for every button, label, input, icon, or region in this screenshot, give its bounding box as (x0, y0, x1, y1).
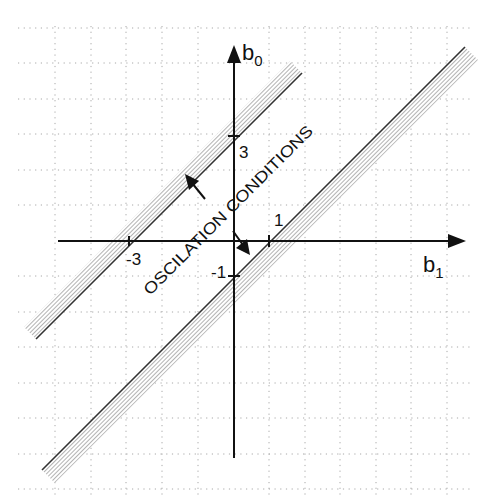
upper-boundary-band (24, 61, 302, 339)
tick-label-y-3: 3 (239, 143, 248, 162)
arrow-to-lower-boundary-icon (233, 231, 250, 255)
oscillation-conditions-label: OSCILATION CONDITIONS (140, 122, 316, 298)
oscillation-conditions-diagram: b0 b1 -3 1 3 -1 OSCILATION CONDITIONS (0, 0, 495, 496)
x-axis-label: b1 (423, 252, 444, 281)
tick-label-y-neg1: -1 (211, 263, 226, 282)
y-axis (227, 45, 241, 458)
tick-label-x-1: 1 (274, 211, 283, 230)
y-axis-label: b0 (242, 40, 263, 69)
tick-label-x-neg3: -3 (126, 250, 141, 269)
